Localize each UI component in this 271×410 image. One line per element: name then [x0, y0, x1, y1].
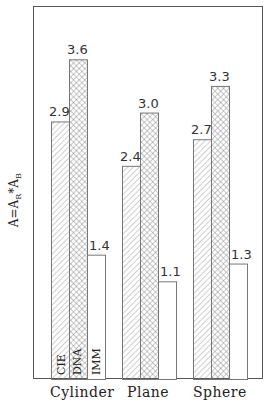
x-label-sphere: Sphere [193, 384, 247, 400]
value-label: 1.4 [89, 238, 110, 253]
bar-cylinder-cie [52, 122, 70, 380]
series-label-imm: IMM [90, 348, 103, 375]
value-label: 1.1 [160, 264, 181, 279]
bar-chart: 2.93.61.42.43.01.12.73.31.3 [0, 0, 271, 410]
bar-plane-cie [123, 166, 141, 379]
x-label-cylinder: Cylinder [50, 384, 115, 400]
series-label-dna: DNA [71, 349, 84, 375]
bar-sphere-cie [194, 140, 212, 380]
x-label-plane: Plane [127, 384, 169, 400]
bar-cylinder-dna [70, 60, 88, 380]
bar-sphere-dna [212, 86, 230, 379]
value-label: 3.0 [138, 96, 159, 111]
value-label: 3.6 [67, 42, 88, 57]
y-axis-label: A=AR*AB [7, 155, 23, 245]
value-label: 2.9 [49, 104, 70, 119]
bar-plane-imm [159, 282, 177, 380]
value-label: 2.4 [120, 149, 141, 164]
bar-sphere-imm [230, 264, 248, 379]
series-label-cie: CIE [55, 354, 68, 375]
value-label: 1.3 [231, 247, 252, 262]
value-label: 2.7 [191, 122, 212, 137]
value-label: 3.3 [209, 69, 230, 84]
bar-plane-dna [141, 113, 159, 379]
